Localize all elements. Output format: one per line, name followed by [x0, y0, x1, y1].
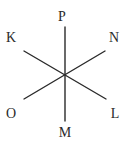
- label-p: P: [58, 9, 66, 24]
- label-l: L: [111, 106, 120, 121]
- label-n: N: [109, 30, 119, 45]
- diagram-canvas: P K N O L M: [0, 0, 128, 145]
- label-o: O: [6, 106, 16, 121]
- label-k: K: [6, 30, 16, 45]
- label-m: M: [59, 125, 72, 140]
